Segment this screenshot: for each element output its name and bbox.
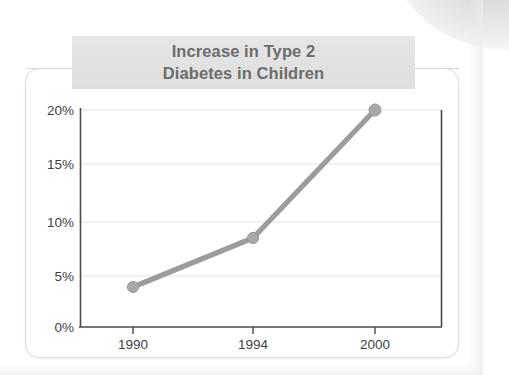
y-tick-label-10: 10% [32,215,74,230]
chart-title: Increase in Type 2 Diabetes in Children [163,41,325,83]
figure-card [25,68,459,358]
title-banner-rule-right [414,68,459,69]
page-edge-shading-bottom [0,363,483,375]
x-tick-label-1990: 1990 [103,337,163,352]
x-tick-label-1994: 1994 [223,337,283,352]
y-tick-label-15: 15% [32,157,74,172]
title-banner-rule-left [26,68,73,69]
x-tick-label-2000: 2000 [345,337,405,352]
y-tick-label-20: 20% [32,103,74,118]
y-tick-label-0: 0% [32,320,74,335]
title-banner: Increase in Type 2 Diabetes in Children [72,36,415,89]
y-tick-label-5: 5% [32,269,74,284]
page-edge-shading-right [469,0,483,375]
